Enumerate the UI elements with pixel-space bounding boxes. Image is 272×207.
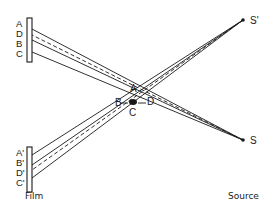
crystal-label-A: A xyxy=(130,83,137,94)
film-bottom xyxy=(27,147,32,192)
source-label: S xyxy=(250,135,257,146)
ray-line xyxy=(32,20,243,155)
diffraction-diagram: ADBCA'B'D'C' ABCD S'S Film Source xyxy=(0,0,272,207)
film-top xyxy=(27,18,32,62)
crystal-label-B: B xyxy=(115,97,122,108)
ray-line xyxy=(32,40,243,140)
ray-line xyxy=(32,20,243,165)
source-point xyxy=(241,18,245,22)
crystal-label-D: D xyxy=(147,96,154,107)
film-spot-label: C xyxy=(16,48,23,59)
source-point xyxy=(241,138,245,142)
source-label: S' xyxy=(250,15,259,26)
crystal-group: ABCD xyxy=(115,83,154,118)
film-group: ADBCA'B'D'C' xyxy=(16,18,32,192)
ray-group xyxy=(32,20,243,178)
source-caption: Source xyxy=(228,191,259,201)
ray-line xyxy=(32,20,243,178)
film-spot-label: C' xyxy=(16,177,25,188)
ray-line xyxy=(32,52,243,140)
crystal-label-C: C xyxy=(129,107,136,118)
dashed-ray-line xyxy=(32,20,243,170)
crystal-sample xyxy=(129,99,137,105)
source-group: S'S xyxy=(241,15,258,146)
film-caption: Film xyxy=(25,191,43,201)
ray-line xyxy=(32,29,243,140)
